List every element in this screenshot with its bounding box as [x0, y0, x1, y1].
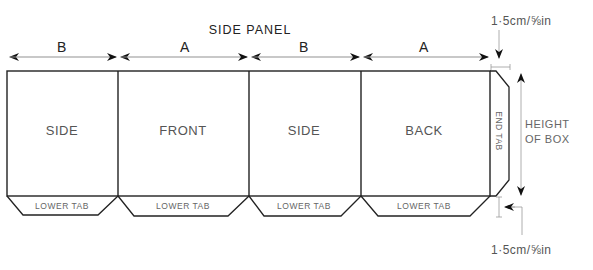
- top-tab-size-indicator: [491, 30, 510, 70]
- top-tab-size-label: 1·5cm/⅝in: [491, 14, 552, 28]
- width-label-a2: A: [419, 39, 429, 55]
- lower-tab-1: LOWER TAB: [35, 201, 89, 211]
- panel-front: FRONT: [159, 123, 206, 138]
- panel-side-1: SIDE: [46, 123, 78, 138]
- height-label-line2: OF BOX: [525, 132, 570, 147]
- end-tab-label: END TAB: [494, 111, 504, 151]
- width-label-b2: B: [299, 39, 309, 55]
- bottom-tab-size-label: 1·5cm/⅝in: [491, 243, 552, 257]
- width-label-b1: B: [57, 39, 67, 55]
- lower-tab-3: LOWER TAB: [277, 201, 331, 211]
- panel-side-2: SIDE: [288, 123, 320, 138]
- bottom-tab-size-indicator: [496, 197, 522, 235]
- width-label-a1: A: [180, 39, 190, 55]
- panel-back: BACK: [405, 123, 442, 138]
- lower-tab-4: LOWER TAB: [397, 201, 451, 211]
- height-of-box-label: HEIGHT OF BOX: [525, 117, 570, 147]
- diagram-title: SIDE PANEL: [209, 23, 292, 37]
- lower-tab-2: LOWER TAB: [156, 201, 210, 211]
- height-label-line1: HEIGHT: [525, 117, 570, 132]
